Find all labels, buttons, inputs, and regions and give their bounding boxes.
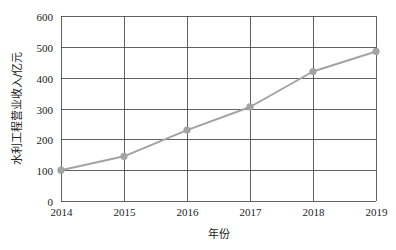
data-point-marker [183, 126, 190, 133]
data-point-marker [57, 167, 64, 174]
y-tick-label: 600 [37, 11, 54, 23]
x-tick-label: 2017 [240, 206, 263, 218]
y-tick-label: 100 [37, 165, 54, 177]
y-axis-ticks: 0100200300400500600 [37, 11, 54, 208]
data-point-marker [246, 103, 253, 110]
y-tick-label: 400 [37, 73, 54, 85]
y-tick-label: 200 [37, 134, 54, 146]
series-line [61, 52, 376, 171]
y-tick-label: 500 [37, 42, 54, 54]
y-axis-title: 水利工程营业收入/亿元 [10, 52, 24, 166]
line-chart: 0100200300400500600 20142015201620172018… [0, 0, 396, 250]
x-tick-label: 2018 [303, 206, 326, 218]
data-point-marker [309, 68, 316, 75]
grid-lines [61, 16, 377, 202]
x-axis-ticks: 201420152016201720182019 [51, 206, 389, 218]
y-tick-label: 300 [37, 104, 54, 116]
x-axis-title: 年份 [208, 227, 230, 241]
x-tick-label: 2014 [51, 206, 74, 218]
data-point-marker [372, 48, 379, 55]
x-tick-label: 2019 [366, 206, 389, 218]
x-tick-label: 2016 [177, 206, 200, 218]
x-tick-label: 2015 [114, 206, 137, 218]
data-point-marker [120, 153, 127, 160]
data-series [57, 48, 379, 174]
